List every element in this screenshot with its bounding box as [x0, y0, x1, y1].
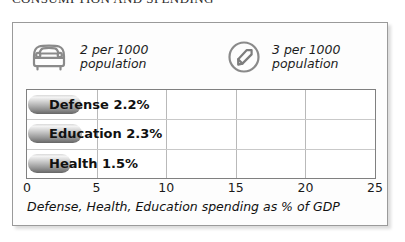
legend-item-cars: 2 per 1000 population — [26, 31, 216, 83]
bar-chart: Defense 2.2%Education 2.3%Health 1.5% — [26, 89, 376, 179]
car-icon — [26, 38, 72, 76]
chart-bar-row: Health 1.5% — [27, 149, 375, 178]
legend-cars-line2: population — [80, 57, 148, 71]
axis-tick-label: 10 — [158, 180, 174, 195]
chart-bar-label: Education 2.3% — [49, 126, 162, 141]
chart-bar-row: Defense 2.2% — [27, 90, 375, 119]
axis-tick-label: 15 — [228, 180, 244, 195]
legend-text-cars: 2 per 1000 population — [80, 43, 148, 71]
axis-tick-label: 5 — [93, 180, 101, 195]
chart-bar-rows: Defense 2.2%Education 2.3%Health 1.5% — [27, 90, 375, 178]
legend-phones-line1: 3 per 1000 — [272, 43, 340, 57]
infographic-panel: 2 per 1000 population 3 per 1000 — [12, 22, 388, 226]
legend-cars-line1: 2 per 1000 — [80, 43, 148, 57]
chart-bar-row: Education 2.3% — [27, 119, 375, 148]
page-title: CONSUMPTION AND SPENDING — [12, 0, 392, 6]
axis-tick-label: 25 — [367, 180, 383, 195]
axis-tick-label: 20 — [297, 180, 313, 195]
chart-bar-label: Defense 2.2% — [49, 97, 149, 112]
legend-text-phones: 3 per 1000 population — [272, 43, 340, 71]
axis-tick-label: 0 — [23, 180, 31, 195]
legend-row: 2 per 1000 population 3 per 1000 — [13, 31, 387, 83]
chart-x-axis: 0510152025 — [26, 180, 376, 198]
infographic-panel-page: CONSUMPTION AND SPENDING — [0, 0, 405, 242]
legend-item-phones: 3 per 1000 population — [224, 31, 340, 83]
chart-caption: Defense, Health, Education spending as %… — [27, 199, 340, 214]
page-title-clipped: CONSUMPTION AND SPENDING — [12, 0, 392, 6]
chart-bar-label: Health 1.5% — [49, 156, 138, 171]
phone-icon — [224, 38, 264, 76]
legend-phones-line2: population — [272, 57, 340, 71]
